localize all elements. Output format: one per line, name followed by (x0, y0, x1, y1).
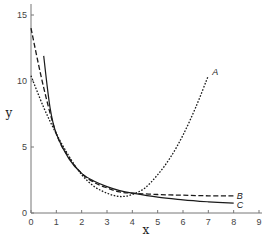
x-tick-label: 4 (130, 217, 135, 227)
curves (31, 28, 234, 203)
y-axis-label: y (5, 106, 13, 120)
x-tick-label: 0 (28, 217, 33, 227)
x-tick-label: 7 (206, 217, 211, 227)
y-tick-label: 10 (17, 76, 27, 86)
y-tick-label: 5 (22, 142, 27, 152)
curve-c (44, 56, 234, 203)
x-tick-label: 6 (180, 217, 185, 227)
y-tick-label: 15 (17, 10, 27, 20)
x-tick-label: 8 (231, 217, 236, 227)
series-label-a: A (211, 67, 218, 77)
curve-b (31, 28, 234, 196)
x-tick-label: 9 (256, 217, 261, 227)
series-label-c: C (237, 200, 244, 210)
x-axis-label: x (143, 223, 150, 237)
x-tick-label: 1 (54, 217, 59, 227)
x-tick-label: 5 (155, 217, 160, 227)
x-tick-label: 3 (104, 217, 109, 227)
labels: ABC (211, 67, 243, 210)
line-chart: 0123456789051015xy ABC (0, 0, 270, 240)
y-tick-label: 0 (22, 208, 27, 218)
x-tick-label: 2 (79, 217, 84, 227)
